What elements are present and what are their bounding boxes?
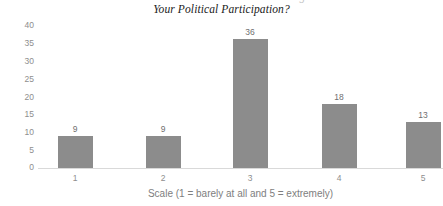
y-axis-tick-15: 15 bbox=[8, 110, 34, 119]
bar-value-label-2: 9 bbox=[143, 125, 183, 134]
bar-value-label-5: 13 bbox=[403, 111, 443, 120]
x-axis-title: Scale (1 = barely at all and 5 = extreme… bbox=[38, 188, 443, 199]
bar-category-5[interactable] bbox=[406, 122, 441, 168]
x-axis-tick-2: 2 bbox=[143, 174, 183, 183]
x-axis-tick-3: 3 bbox=[230, 174, 270, 183]
y-axis-tick-25: 25 bbox=[8, 75, 34, 84]
y-axis-tick-30: 30 bbox=[8, 57, 34, 66]
bar-value-label-3: 36 bbox=[230, 28, 270, 37]
bar-category-3[interactable] bbox=[233, 39, 268, 168]
x-axis-tick-5: 5 bbox=[403, 174, 443, 183]
x-axis-baseline bbox=[38, 168, 443, 169]
x-axis-tick-4: 4 bbox=[319, 174, 359, 183]
bar-chart-plot-area: 40 35 30 25 20 15 10 5 0 9 9 36 18 13 1 … bbox=[0, 0, 443, 206]
y-axis-tick-40: 40 bbox=[8, 21, 34, 30]
bar-category-1[interactable] bbox=[58, 136, 93, 168]
y-axis-tick-5: 5 bbox=[8, 146, 34, 155]
y-axis-tick-35: 35 bbox=[8, 39, 34, 48]
bar-value-label-4: 18 bbox=[319, 93, 359, 102]
bar-category-4[interactable] bbox=[322, 104, 357, 168]
bar-category-2[interactable] bbox=[146, 136, 181, 168]
y-axis-tick-10: 10 bbox=[8, 128, 34, 137]
y-axis-tick-0: 0 bbox=[8, 163, 34, 172]
bar-value-label-1: 9 bbox=[55, 125, 95, 134]
y-axis-tick-20: 20 bbox=[8, 93, 34, 102]
x-axis-tick-1: 1 bbox=[55, 174, 95, 183]
